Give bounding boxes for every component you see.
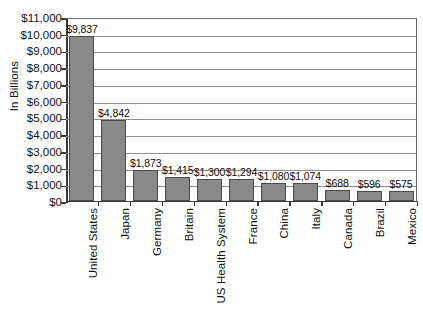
bar-rect <box>133 170 158 201</box>
x-axis-category-labels: United StatesJapanGermanyBritainUS Healt… <box>66 208 417 328</box>
x-axis-tick-mark <box>257 201 258 206</box>
x-axis-category-label: Canada <box>342 208 354 249</box>
x-axis-tick-mark <box>194 201 195 206</box>
bar: $1,074 <box>293 183 318 201</box>
x-axis-tick-mark <box>130 201 131 206</box>
bar: $1,873 <box>133 170 158 201</box>
bar-chart: In Billions $11,000$10,000$9,000$8,000$7… <box>0 0 423 330</box>
bar-rect <box>165 177 190 201</box>
bar-value-label: $1,080 <box>258 170 290 182</box>
bars: $9,837$4,842$1,873$1,415$1,300$1,294$1,0… <box>66 19 416 201</box>
bar-rect <box>261 183 286 201</box>
x-axis-category-label: United States <box>87 208 99 278</box>
y-axis-tick-mark <box>61 202 66 203</box>
x-axis-tick-mark <box>385 201 386 206</box>
bar-rect <box>197 179 222 201</box>
x-axis-category-label: Japan <box>119 208 131 240</box>
x-axis-category-label: Britain <box>183 208 195 241</box>
bar: $4,842 <box>101 120 126 201</box>
bar: $1,415 <box>165 177 190 201</box>
bar-value-label: $688 <box>326 177 349 189</box>
bar: $596 <box>357 191 382 201</box>
bar-value-label: $9,837 <box>66 23 98 35</box>
x-axis-category-label: Mexico <box>406 208 418 245</box>
y-axis-tick-label: $5,000 <box>27 112 62 124</box>
bar-value-label: $1,294 <box>226 166 258 178</box>
x-axis-category-label: US Health System <box>215 208 227 304</box>
y-axis-tick-label: $4,000 <box>27 129 62 141</box>
bar-value-label: $596 <box>358 178 381 190</box>
bar-value-label: $4,842 <box>98 107 130 119</box>
bar-value-label: $1,074 <box>290 170 322 182</box>
bar-value-label: $575 <box>390 178 413 190</box>
bar: $1,080 <box>261 183 286 201</box>
x-axis-category-label: Germany <box>151 208 163 256</box>
x-axis-tick-mark <box>289 201 290 206</box>
plot-area: $9,837$4,842$1,873$1,415$1,300$1,294$1,0… <box>66 18 417 202</box>
bar: $575 <box>389 191 414 201</box>
bar-value-label: $1,300 <box>194 166 226 178</box>
bar-rect <box>293 183 318 201</box>
bar-value-label: $1,873 <box>130 157 162 169</box>
bar: $9,837 <box>69 36 94 201</box>
y-axis-tick-labels: $11,000$10,000$9,000$8,000$7,000$6,000$5… <box>6 18 62 202</box>
y-axis-tick-label: $2,000 <box>27 163 62 175</box>
bar-rect <box>325 190 350 202</box>
bar-rect <box>101 120 126 201</box>
y-axis-tick-label: $11,000 <box>21 12 62 24</box>
y-axis-tick-label: $10,000 <box>20 29 62 41</box>
x-axis-category-label: Italy <box>310 208 322 230</box>
bar: $1,300 <box>197 179 222 201</box>
x-axis-tick-mark <box>417 201 418 206</box>
x-axis-tick-mark <box>98 201 99 206</box>
bar: $1,294 <box>229 179 254 201</box>
x-axis-tick-mark <box>226 201 227 206</box>
y-axis-tick-label: $9,000 <box>27 45 62 57</box>
x-axis-category-label: Brazil <box>374 208 386 237</box>
bar-value-label: $1,415 <box>162 164 194 176</box>
x-axis-category-label: France <box>247 208 259 244</box>
bar-rect <box>69 36 94 201</box>
x-axis-category-label: China <box>278 208 290 239</box>
bar-rect <box>389 191 414 201</box>
bar-rect <box>357 191 382 201</box>
y-axis-tick-label: $7,000 <box>27 79 62 91</box>
y-axis-tick-label: $6,000 <box>27 96 62 108</box>
x-axis-tick-mark <box>162 201 163 206</box>
x-axis-tick-mark <box>353 201 354 206</box>
y-axis-tick-label: $8,000 <box>27 62 62 74</box>
bar: $688 <box>325 190 350 202</box>
y-axis-tick-label: $3,000 <box>27 146 62 158</box>
y-axis-tick-label: $1,000 <box>27 179 62 191</box>
x-axis-tick-mark <box>321 201 322 206</box>
bar-rect <box>229 179 254 201</box>
